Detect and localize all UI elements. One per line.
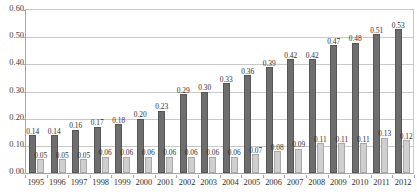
bar-group: 0.420.11 xyxy=(306,10,328,173)
bar-value-label: 0.06 xyxy=(142,149,155,156)
x-axis-tick-label: 2012 xyxy=(392,175,414,196)
bar-series-dark-2008[interactable]: 0.42 xyxy=(309,59,316,173)
bar-series-dark-2002[interactable]: 0.29 xyxy=(180,94,187,173)
x-axis-tick-mark xyxy=(371,175,372,178)
y-axis-tick-label: 0.60 xyxy=(2,5,24,13)
bar-series-light-2011[interactable]: 0.13 xyxy=(381,138,388,173)
bar-value-label: 0.06 xyxy=(228,149,241,156)
bar-chart: 0.600.500.400.300.200.100.00 0.140.050.1… xyxy=(0,0,417,196)
x-axis-tick-label: 1996 xyxy=(47,175,69,196)
x-axis-tick-mark xyxy=(392,175,393,178)
x-axis-tick-label: 2005 xyxy=(241,175,263,196)
bar-value-label: 0.13 xyxy=(378,130,391,137)
x-axis-tick-label: 2000 xyxy=(133,175,155,196)
bar-group: 0.330.06 xyxy=(220,10,242,173)
bar-series-light-2005[interactable]: 0.07 xyxy=(252,154,259,173)
x-axis-tick-mark xyxy=(414,175,415,178)
bar-group: 0.230.06 xyxy=(155,10,177,173)
bar-series-dark-2001[interactable]: 0.23 xyxy=(158,111,165,173)
bar-series-light-2012[interactable]: 0.12 xyxy=(403,140,410,173)
y-axis-tick-label: 0.50 xyxy=(2,32,24,40)
bar-series-light-1997[interactable]: 0.05 xyxy=(80,159,87,173)
bar-series-dark-2000[interactable]: 0.20 xyxy=(137,119,144,173)
x-axis-tick-label: 1998 xyxy=(90,175,112,196)
bar-series-light-2004[interactable]: 0.06 xyxy=(231,157,238,173)
x-axis-tick-label: 1997 xyxy=(68,175,90,196)
x-axis-tick-mark xyxy=(328,175,329,178)
bar-series-dark-2003[interactable]: 0.30 xyxy=(201,92,208,174)
bar-group: 0.160.05 xyxy=(69,10,91,173)
bar-value-label: 0.30 xyxy=(198,84,211,91)
bar-group: 0.170.06 xyxy=(91,10,113,173)
bar-value-label: 0.39 xyxy=(263,60,276,67)
x-axis-tick-label: 2009 xyxy=(328,175,350,196)
bar-series-dark-2009[interactable]: 0.47 xyxy=(330,45,337,173)
bar-value-label: 0.06 xyxy=(120,149,133,156)
x-axis-tick-mark xyxy=(349,175,350,178)
bar-series-light-2001[interactable]: 0.06 xyxy=(166,157,173,173)
bar-series-light-2006[interactable]: 0.08 xyxy=(274,151,281,173)
bar-value-label: 0.18 xyxy=(112,117,125,124)
bar-value-label: 0.11 xyxy=(335,136,348,143)
bar-series-light-1999[interactable]: 0.06 xyxy=(123,157,130,173)
bar-series-light-1995[interactable]: 0.05 xyxy=(37,159,44,173)
x-axis-tick-mark xyxy=(47,175,48,178)
bar-series-light-1996[interactable]: 0.05 xyxy=(59,159,66,173)
bar-group: 0.290.06 xyxy=(177,10,199,173)
bar-group: 0.140.05 xyxy=(26,10,48,173)
y-axis-tick-label: 0.20 xyxy=(2,113,24,121)
bar-value-label: 0.33 xyxy=(220,76,233,83)
bar-series-dark-2005[interactable]: 0.36 xyxy=(244,75,251,173)
x-axis-tick-label: 2001 xyxy=(155,175,177,196)
y-axis-tick-mark xyxy=(23,173,26,174)
bar-value-label: 0.11 xyxy=(357,136,370,143)
bar-value-label: 0.05 xyxy=(77,152,90,159)
x-axis-tick-label: 2003 xyxy=(198,175,220,196)
bar-groups: 0.140.050.140.050.160.050.170.060.180.06… xyxy=(26,10,413,173)
y-axis-tick-label: 0.00 xyxy=(2,168,24,176)
bar-value-label: 0.07 xyxy=(249,147,262,154)
bar-value-label: 0.17 xyxy=(91,119,104,126)
bar-series-light-1998[interactable]: 0.06 xyxy=(102,157,109,173)
bar-series-dark-2007[interactable]: 0.42 xyxy=(287,59,294,173)
bar-value-label: 0.29 xyxy=(177,87,190,94)
bar-value-label: 0.47 xyxy=(327,38,340,45)
bar-series-dark-2011[interactable]: 0.51 xyxy=(373,34,380,173)
bar-group: 0.180.06 xyxy=(112,10,134,173)
bar-series-light-2003[interactable]: 0.06 xyxy=(209,157,216,173)
bar-value-label: 0.20 xyxy=(134,111,147,118)
bar-group: 0.390.08 xyxy=(263,10,285,173)
y-axis-tick-label: 0.30 xyxy=(2,86,24,94)
x-axis-tick-mark xyxy=(90,175,91,178)
x-axis-tick-mark xyxy=(263,175,264,178)
bar-value-label: 0.06 xyxy=(163,149,176,156)
bar-series-light-2010[interactable]: 0.11 xyxy=(360,143,367,173)
bar-series-dark-2006[interactable]: 0.39 xyxy=(266,67,273,173)
bar-series-light-2007[interactable]: 0.09 xyxy=(295,149,302,173)
x-axis-tick-mark xyxy=(284,175,285,178)
bar-series-dark-2012[interactable]: 0.53 xyxy=(395,29,402,173)
x-axis-tick-label: 2011 xyxy=(371,175,393,196)
x-axis-tick-label: 2008 xyxy=(306,175,328,196)
bar-series-dark-2004[interactable]: 0.33 xyxy=(223,83,230,173)
x-axis-tick-mark xyxy=(306,175,307,178)
bar-group: 0.300.06 xyxy=(198,10,220,173)
bar-value-label: 0.05 xyxy=(56,152,69,159)
x-axis-tick-label: 2007 xyxy=(284,175,306,196)
x-axis-tick-mark xyxy=(133,175,134,178)
bar-series-light-2002[interactable]: 0.06 xyxy=(188,157,195,173)
bar-value-label: 0.51 xyxy=(370,27,383,34)
bar-value-label: 0.42 xyxy=(284,52,297,59)
x-axis: 1995199619971998199920002001200220032004… xyxy=(25,175,414,196)
bar-series-light-2008[interactable]: 0.11 xyxy=(317,143,324,173)
x-axis-tick-mark xyxy=(176,175,177,178)
plot-area: 0.140.050.140.050.160.050.170.060.180.06… xyxy=(25,9,414,174)
bar-series-dark-2010[interactable]: 0.48 xyxy=(352,43,359,173)
bar-series-light-2009[interactable]: 0.11 xyxy=(338,143,345,173)
bar-value-label: 0.53 xyxy=(392,22,405,29)
bar-value-label: 0.08 xyxy=(271,144,284,151)
bar-series-light-2000[interactable]: 0.06 xyxy=(145,157,152,173)
bar-value-label: 0.14 xyxy=(26,128,39,135)
bar-value-label: 0.14 xyxy=(48,128,61,135)
bar-value-label: 0.06 xyxy=(99,149,112,156)
